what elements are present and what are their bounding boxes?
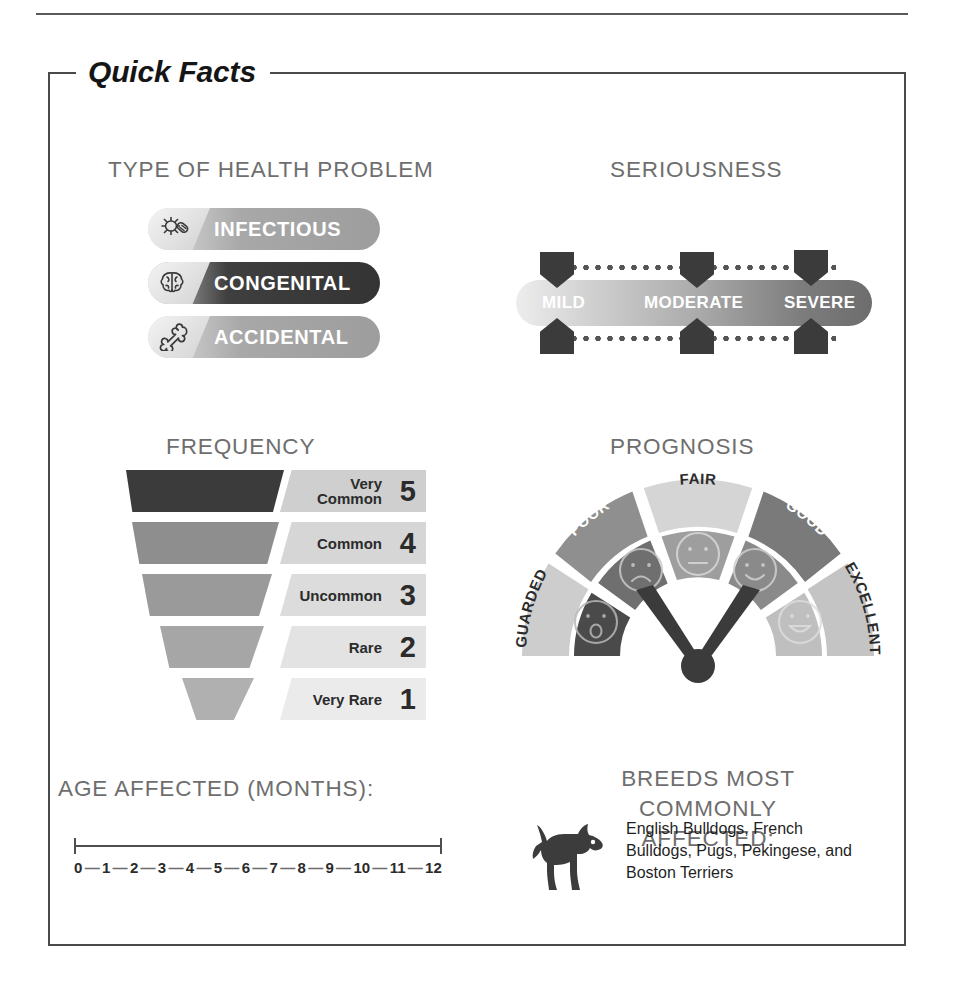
frequency-tier-label: Uncommon (300, 588, 383, 603)
age-tick-dash: — (372, 859, 387, 876)
funnel-segment (160, 626, 264, 668)
funnel-segment (182, 678, 254, 720)
age-tick: 6 (242, 859, 250, 876)
age-tick-labels: 0— 1— 2— 3— 4— 5— 6— 7— 8— 9— 10— 11— 12 (74, 859, 442, 876)
frequency-tier-value: 1 (400, 678, 416, 720)
age-tick: 3 (158, 859, 166, 876)
frequency-tier-tab: Rare 2 (280, 626, 426, 668)
age-tick-dash: — (196, 859, 211, 876)
frequency-tier-tab: VeryCommon 5 (280, 470, 426, 512)
frequency-tier-label-line2: Common (317, 491, 382, 506)
funnel-segment (132, 522, 279, 564)
gauge-face-segment-fair[interactable] (662, 531, 735, 580)
age-tick: 8 (298, 859, 306, 876)
breeds-body: English Bulldogs, French Bulldogs, Pugs,… (528, 818, 858, 918)
breeds-text: English Bulldogs, French Bulldogs, Pugs,… (626, 818, 860, 884)
age-tick: 10 (353, 859, 370, 876)
health-problem-label: ACCIDENTAL (214, 316, 349, 358)
funnel-segment (126, 470, 284, 512)
section-heading-seriousness: SERIOUSNESS (610, 157, 782, 183)
gauge-needles (636, 585, 760, 683)
age-tick: 1 (102, 859, 110, 876)
frequency-tier-2[interactable]: Rare 2 (126, 626, 426, 668)
frequency-tier-label: Very Rare (313, 692, 382, 707)
page-title: Quick Facts (76, 50, 270, 94)
header-rule (36, 13, 908, 15)
age-tick: 11 (390, 859, 406, 876)
section-heading-type-of-health-problem: TYPE OF HEALTH PROBLEM (108, 157, 434, 183)
frequency-tier-value: 2 (400, 626, 416, 668)
age-tick: 7 (270, 859, 278, 876)
health-problem-item-infectious[interactable]: INFECTIOUS (148, 208, 380, 250)
seriousness-label-severe: SEVERE (784, 280, 855, 326)
age-tick-dash: — (113, 859, 128, 876)
age-axis-cap-end (440, 838, 442, 854)
section-heading-frequency: FREQUENCY (166, 434, 315, 460)
health-problem-label: CONGENITAL (214, 262, 351, 304)
age-tick-dash: — (280, 859, 295, 876)
age-axis-cap-start (74, 838, 76, 854)
age-tick-dash: — (336, 859, 351, 876)
age-tick-dash: — (408, 859, 423, 876)
age-tick: 4 (186, 859, 194, 876)
frequency-tier-label-line1: Very (350, 476, 382, 491)
seriousness-scale: MILD MODERATE SEVERE (512, 248, 880, 354)
health-problem-label: INFECTIOUS (214, 208, 341, 250)
gauge-segment-fair[interactable] (644, 479, 752, 533)
age-tick-dash: — (252, 859, 267, 876)
age-tick-dash: — (168, 859, 183, 876)
frequency-funnel: VeryCommon 5 Common 4 Uncommon 3 Rare 2 … (126, 470, 426, 720)
frequency-tier-label: Common (317, 536, 382, 551)
age-tick: 2 (130, 859, 138, 876)
age-tick-dash: — (308, 859, 323, 876)
health-problem-item-congenital[interactable]: CONGENITAL (148, 262, 380, 304)
frequency-tier-1[interactable]: Very Rare 1 (126, 678, 426, 720)
frequency-tier-tab: Very Rare 1 (280, 678, 426, 720)
health-problem-item-accidental[interactable]: ACCIDENTAL (148, 316, 380, 358)
frequency-tier-value: 3 (400, 574, 416, 616)
frequency-tier-label: Rare (349, 640, 382, 655)
section-heading-age-affected: AGE AFFECTED (MONTHS): (58, 776, 374, 802)
dog-icon (528, 822, 612, 902)
frequency-tier-tab: Uncommon 3 (280, 574, 426, 616)
prognosis-gauge: GUARDED POOR FAIR GOOD EXCELLENT (492, 460, 904, 710)
dotted-connector (568, 336, 696, 341)
age-tick: 9 (325, 859, 333, 876)
breeds-heading-line1: BREEDS MOST (621, 766, 795, 791)
age-tick-dash: — (141, 859, 156, 876)
gauge-label-fair: FAIR (679, 470, 717, 488)
gauge-hub (681, 649, 715, 683)
dotted-connector (568, 265, 696, 270)
frequency-tier-value: 5 (400, 470, 416, 512)
age-tick-dash: — (85, 859, 100, 876)
seriousness-label-moderate: MODERATE (644, 280, 743, 326)
funnel-segment (142, 574, 272, 616)
frequency-tier-tab: Common 4 (280, 522, 426, 564)
frequency-tier-5[interactable]: VeryCommon 5 (126, 470, 426, 512)
age-affected-scale: 0— 1— 2— 3— 4— 5— 6— 7— 8— 9— 10— 11— 12 (74, 845, 442, 893)
section-heading-prognosis: PROGNOSIS (610, 434, 754, 460)
seriousness-label-mild: MILD (542, 280, 585, 326)
frequency-tier-3[interactable]: Uncommon 3 (126, 574, 426, 616)
age-tick: 0 (74, 859, 82, 876)
frequency-tier-4[interactable]: Common 4 (126, 522, 426, 564)
age-tick: 12 (425, 859, 442, 876)
age-tick: 5 (214, 859, 222, 876)
frequency-tier-value: 4 (400, 522, 416, 564)
age-axis-line (74, 845, 442, 847)
age-tick-dash: — (224, 859, 239, 876)
